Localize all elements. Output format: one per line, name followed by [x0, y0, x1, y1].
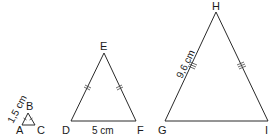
- triangle-def-shape: [71, 53, 136, 121]
- equal-tick-hi: [237, 62, 246, 69]
- side-length-df: 5 cm: [92, 125, 114, 136]
- vertex-label-c: C: [37, 124, 45, 136]
- vertex-label-g: G: [158, 124, 167, 136]
- vertex-label-d: D: [62, 124, 70, 136]
- triangle-abc: A B C 1,5 cm: [5, 93, 45, 136]
- vertex-label-i: I: [265, 124, 268, 136]
- side-length-gh: 9,6 cm: [174, 48, 197, 80]
- vertex-label-e: E: [100, 40, 107, 52]
- diagram-canvas: A B C 1,5 cm D E F 5 cm G: [0, 0, 273, 137]
- vertex-label-a: A: [16, 124, 24, 136]
- triangle-ghi: G H I 9,6 cm: [158, 0, 268, 136]
- vertex-label-b: B: [26, 100, 33, 112]
- vertex-label-f: F: [137, 124, 144, 136]
- vertex-label-h: H: [212, 0, 220, 12]
- triangle-abc-shape: [22, 113, 35, 125]
- triangle-def: D E F 5 cm: [62, 40, 144, 136]
